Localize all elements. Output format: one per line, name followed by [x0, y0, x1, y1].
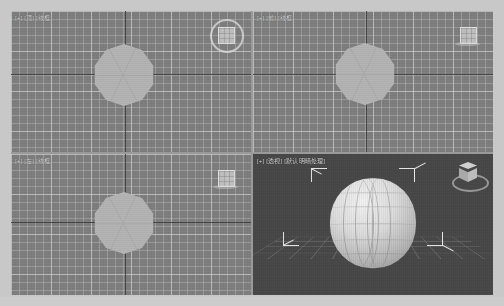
viewport-left[interactable]: [+] [左] [线框]	[11, 154, 251, 295]
object-sphere-perspective[interactable]	[330, 178, 416, 268]
selection-bracket-top-right	[393, 168, 415, 188]
viewport-label-left[interactable]: [+] [左] [线框]	[15, 157, 52, 165]
viewcube-base	[455, 42, 480, 46]
screenshot-root: [+] [顶] [线框] [+] [前] [线框]	[0, 0, 504, 306]
object-wireframe	[330, 178, 416, 268]
viewport-top[interactable]: [+] [顶] [线框]	[11, 11, 251, 152]
viewport-label-top[interactable]: [+] [顶] [线框]	[15, 14, 52, 22]
viewport-grid: [+] [顶] [线框] [+] [前] [线框]	[11, 11, 493, 295]
viewport-label-front[interactable]: [+] [前] [线框]	[257, 14, 294, 22]
selection-bracket-top-left	[311, 168, 333, 188]
viewport-perspective[interactable]: [+] [透视] [默认明暗处理]	[253, 154, 493, 295]
viewcube-face	[218, 27, 235, 44]
viewport-label-perspective[interactable]: [+] [透视] [默认明暗处理]	[257, 157, 325, 165]
viewcube-square[interactable]	[451, 19, 485, 51]
viewcube-square[interactable]	[209, 162, 243, 194]
selection-bracket-bottom-left	[283, 226, 305, 246]
viewport-front[interactable]: [+] [前] [线框]	[253, 11, 493, 152]
viewcube-base	[213, 185, 238, 189]
viewcube-ring[interactable]	[209, 19, 243, 51]
page-bottom-edge	[0, 297, 504, 306]
selection-bracket-bottom-right	[421, 226, 443, 246]
viewcube-3d[interactable]	[451, 160, 487, 194]
